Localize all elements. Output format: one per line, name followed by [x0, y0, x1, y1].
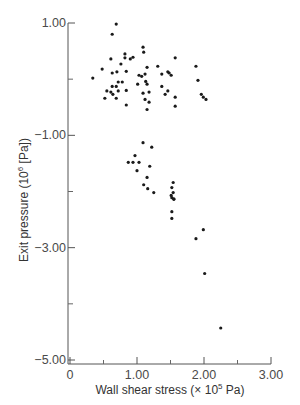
y-axis-label: Exit pressure (106 [Pa]): [16, 138, 31, 262]
data-point: [200, 93, 203, 96]
data-point: [127, 161, 130, 164]
data-point: [115, 97, 118, 100]
data-point: [141, 141, 144, 144]
y-tick-label: 1.00: [42, 16, 66, 30]
data-point: [111, 71, 114, 74]
data-point: [115, 23, 118, 26]
data-point: [142, 183, 145, 186]
data-point: [129, 57, 132, 60]
data-point: [125, 89, 128, 92]
data-point: [170, 74, 173, 77]
data-point: [170, 210, 173, 213]
data-point: [145, 108, 148, 111]
data-point: [145, 176, 148, 179]
data-point: [172, 198, 175, 201]
data-point: [111, 85, 114, 88]
data-point: [174, 105, 177, 108]
data-point: [143, 98, 146, 101]
data-point: [142, 51, 145, 54]
data-point: [145, 66, 148, 69]
data-point: [135, 169, 138, 172]
data-point: [123, 52, 126, 55]
data-point: [109, 57, 112, 60]
data-point: [131, 161, 134, 164]
data-point: [117, 89, 120, 92]
data-point: [136, 83, 139, 86]
data-point: [202, 96, 205, 99]
data-point: [170, 186, 173, 189]
data-point: [141, 92, 144, 95]
data-point: [115, 70, 118, 73]
data-point: [172, 191, 175, 194]
data-point: [174, 96, 177, 99]
data-point: [160, 85, 163, 88]
x-tick-label: 3.00: [259, 368, 283, 382]
data-point: [111, 33, 114, 36]
data-point: [203, 272, 206, 275]
data-point: [140, 75, 143, 78]
data-point: [160, 73, 163, 76]
data-point: [174, 56, 177, 59]
data-point: [144, 80, 147, 83]
data-point: [147, 101, 150, 104]
data-point: [143, 73, 146, 76]
data-point: [164, 93, 167, 96]
y-tick-label: −3.00: [34, 241, 66, 255]
data-point: [105, 89, 108, 92]
x-tick-label: 2.00: [192, 368, 216, 382]
data-point: [119, 62, 122, 65]
data-point: [145, 83, 148, 86]
data-point: [194, 65, 197, 68]
y-tick-label: −1.00: [34, 128, 66, 142]
data-point: [146, 187, 149, 190]
data-point: [148, 165, 151, 168]
data-point: [156, 65, 159, 68]
data-point: [152, 191, 155, 194]
data-point: [103, 97, 106, 100]
data-point: [166, 89, 169, 92]
data-points: [91, 23, 222, 330]
data-point: [123, 56, 126, 59]
data-point: [111, 93, 114, 96]
data-point: [194, 237, 197, 240]
data-point: [133, 154, 136, 157]
scatter-chart: 1.00−1.00−3.00−5.0001.002.003.00 Wall sh…: [0, 0, 300, 405]
x-tick-label: 0: [67, 368, 74, 382]
data-point: [101, 67, 104, 70]
data-point: [141, 46, 144, 49]
data-point: [125, 70, 128, 73]
data-point: [115, 85, 118, 88]
data-point: [117, 80, 120, 83]
data-point: [172, 181, 175, 184]
data-point: [125, 103, 128, 106]
data-point: [196, 79, 199, 82]
x-tick-label: 1.00: [125, 368, 149, 382]
data-point: [147, 90, 150, 93]
data-point: [131, 56, 134, 59]
data-point: [204, 98, 207, 101]
tick-labels: 1.00−1.00−3.00−5.0001.002.003.00: [34, 16, 283, 382]
data-point: [170, 217, 173, 220]
data-point: [121, 80, 124, 83]
data-point: [150, 146, 153, 149]
data-point: [91, 76, 94, 79]
y-tick-label: −5.00: [34, 353, 66, 367]
data-point: [137, 161, 140, 164]
x-axis-label: Wall shear stress (× 105 Pa): [95, 382, 244, 397]
data-point: [219, 326, 222, 329]
data-point: [202, 228, 205, 231]
